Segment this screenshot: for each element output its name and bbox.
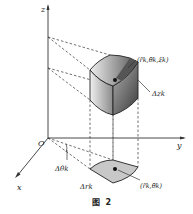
- delta-r-label: Δrk: [79, 183, 93, 191]
- volume-element-solid: [90, 55, 138, 115]
- x-axis-label: x: [17, 183, 22, 192]
- point-3d-label: (r̄k,θ̄k,z̄k): [137, 56, 169, 64]
- y-arrow-icon: [180, 137, 186, 140]
- point-2d-marker: [113, 167, 117, 171]
- cylindrical-volume-element-figure: z y x O (r̄k,θ̄k,z̄k) Δzk Δθk Δrk (r̄k,θ…: [0, 0, 193, 214]
- origin-label: O: [38, 139, 45, 148]
- point-2d-label: (r̄k,θ̄k): [140, 182, 163, 190]
- leader-delta-z: [138, 80, 150, 92]
- z-axis-label: z: [40, 5, 46, 14]
- base-region: [90, 160, 138, 183]
- delta-z-label: Δzk: [151, 90, 165, 98]
- z-arrow-icon: [47, 4, 50, 10]
- point-3d-marker: [113, 78, 117, 82]
- y-axis-label: y: [176, 141, 182, 150]
- delta-theta-label: Δθk: [54, 165, 69, 173]
- figure-caption: 图 2: [92, 198, 111, 207]
